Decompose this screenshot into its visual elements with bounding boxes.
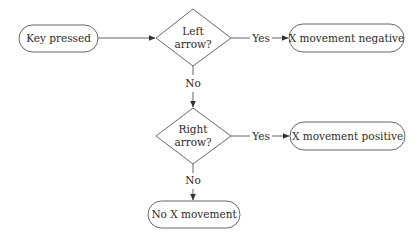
decision-label-line1: Right (179, 123, 209, 135)
node-label: No X movement (151, 208, 237, 220)
edge-left-yes: Yes (231, 32, 288, 44)
node-x-movement-positive: X movement positive (290, 122, 405, 150)
edge-label-yes: Yes (251, 32, 270, 44)
node-label: X movement negative (289, 32, 404, 44)
edge-right-no: No (185, 164, 201, 200)
edge-label-no: No (185, 174, 201, 186)
edge-right-yes: Yes (231, 130, 289, 142)
edge-label-no: No (185, 77, 201, 89)
node-label: Key pressed (26, 32, 91, 44)
edge-left-no: No (185, 66, 201, 107)
node-left-arrow-decision: Left arrow? (156, 9, 231, 66)
node-x-movement-negative: X movement negative (289, 24, 404, 52)
node-label: X movement positive (292, 130, 403, 142)
decision-label-line1: Left (182, 25, 204, 37)
node-key-pressed: Key pressed (19, 25, 98, 52)
flowchart: Yes No Yes No Key pressed Left arrow? X … (0, 0, 419, 246)
node-no-x-movement: No X movement (148, 201, 240, 228)
decision-label-line2: arrow? (174, 136, 212, 148)
node-right-arrow-decision: Right arrow? (156, 108, 231, 164)
decision-label-line2: arrow? (174, 38, 212, 50)
edge-label-yes: Yes (251, 130, 270, 142)
